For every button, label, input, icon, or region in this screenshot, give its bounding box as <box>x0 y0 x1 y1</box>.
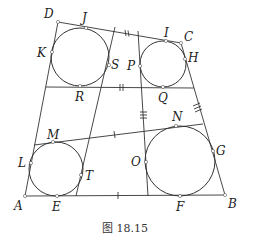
label-e: E <box>51 200 61 214</box>
circle-top-right <box>140 41 186 87</box>
side-cd <box>58 22 181 43</box>
circle-bottom-left <box>29 142 83 196</box>
label-c: C <box>184 30 193 44</box>
label-k: K <box>36 46 47 60</box>
tick-single-mn <box>114 131 115 138</box>
label-n: N <box>171 110 183 124</box>
side-bc <box>181 43 225 195</box>
label-i: I <box>163 26 169 40</box>
label-o: O <box>131 155 141 169</box>
label-j: J <box>79 11 88 25</box>
tick-double-dc <box>125 30 129 37</box>
label-g: G <box>216 144 226 158</box>
label-q: Q <box>158 91 168 105</box>
label-d: D <box>43 7 54 21</box>
label-t: T <box>85 169 94 183</box>
label-b: B <box>227 197 237 211</box>
circle-bottom-right <box>145 126 215 196</box>
points <box>23 20 226 197</box>
label-f: F <box>175 200 185 214</box>
label-r: R <box>74 90 84 104</box>
label-m: M <box>46 128 60 142</box>
label-p: P <box>126 59 136 73</box>
label-a: A <box>13 199 23 213</box>
line-left-transversal <box>76 27 115 196</box>
circle-top-left <box>51 28 109 86</box>
label-h: H <box>187 51 199 65</box>
geometry-diagram: D J K S R I C P H Q N M L T O G A E F B … <box>0 0 253 242</box>
label-l: L <box>17 156 26 170</box>
label-s: S <box>111 58 119 72</box>
figure-caption: 图 18.15 <box>102 222 148 235</box>
